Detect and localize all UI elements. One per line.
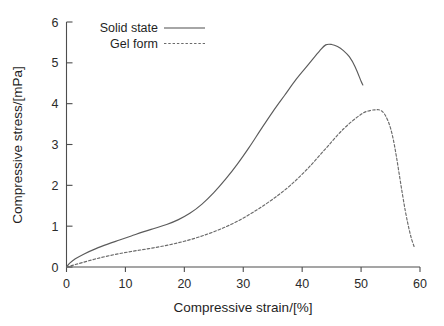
series-line-gel-form bbox=[67, 110, 415, 267]
y-axis-label: Compressive stress/[mPa] bbox=[10, 66, 25, 224]
compressive-stress-strain-chart: 0102030405060 0123456 Solid stateGel for… bbox=[0, 0, 444, 326]
series-line-solid-state bbox=[67, 44, 363, 267]
x-axis-ticks: 0102030405060 bbox=[63, 267, 427, 291]
x-tick-label: 60 bbox=[413, 277, 427, 291]
chart-legend: Solid stateGel form bbox=[100, 21, 205, 51]
y-tick-label: 2 bbox=[52, 179, 59, 193]
y-axis-ticks: 0123456 bbox=[52, 16, 73, 275]
x-tick-label: 20 bbox=[177, 277, 191, 291]
axes: 0102030405060 0123456 bbox=[52, 16, 427, 292]
y-tick-label: 5 bbox=[52, 56, 59, 70]
y-tick-label: 0 bbox=[52, 261, 59, 275]
x-tick-label: 0 bbox=[63, 277, 70, 291]
y-tick-label: 3 bbox=[52, 138, 59, 152]
x-axis-label: Compressive strain/[%] bbox=[174, 300, 313, 315]
x-tick-label: 50 bbox=[354, 277, 368, 291]
legend-label-gel-form: Gel form bbox=[110, 37, 158, 51]
chart-figure: 0102030405060 0123456 Solid stateGel for… bbox=[0, 0, 444, 326]
axis-spines bbox=[67, 22, 421, 267]
y-tick-label: 6 bbox=[52, 16, 59, 30]
y-tick-label: 1 bbox=[52, 220, 59, 234]
y-tick-label: 4 bbox=[52, 97, 59, 111]
data-series-group bbox=[67, 44, 415, 267]
legend-label-solid-state: Solid state bbox=[100, 21, 158, 35]
x-tick-label: 40 bbox=[295, 277, 309, 291]
x-tick-label: 30 bbox=[236, 277, 250, 291]
x-tick-label: 10 bbox=[118, 277, 132, 291]
